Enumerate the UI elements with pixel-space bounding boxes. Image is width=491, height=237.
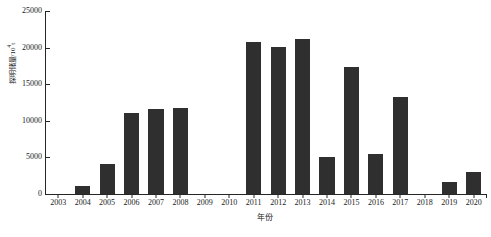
bar-slot [168, 11, 192, 194]
x-axis-tick: 2005 [95, 194, 119, 210]
y-axis-title: 探明储量/104t [9, 9, 16, 119]
x-axis-tick-label: 2016 [364, 199, 388, 207]
bar-slot [217, 11, 241, 194]
bar[interactable] [124, 113, 139, 194]
bar-slot [193, 11, 217, 194]
x-axis-tick-label: 2007 [144, 199, 168, 207]
bar-slot [461, 11, 485, 194]
x-axis-tick-label: 2012 [266, 199, 290, 207]
bar-slot [315, 11, 339, 194]
bar[interactable] [75, 186, 90, 194]
x-axis-tick-label: 2011 [242, 199, 266, 207]
bar[interactable] [393, 97, 408, 194]
x-axis-tick: 2017 [388, 194, 412, 210]
bar-slot [339, 11, 363, 194]
bar-slot [290, 11, 314, 194]
bar[interactable] [100, 164, 115, 194]
x-axis-tick: 2011 [242, 194, 266, 210]
x-axis-tick: 2007 [144, 194, 168, 210]
bar-slot [242, 11, 266, 194]
y-axis-tick-label: 0 [38, 190, 46, 198]
bar[interactable] [442, 182, 457, 194]
x-axis-title: 年份 [45, 214, 485, 222]
bars-layer [46, 11, 486, 194]
bar-slot [413, 11, 437, 194]
y-axis-tick-label: 15000 [22, 80, 46, 88]
plot-area: 0500010000150002000025000 20032004200520… [45, 11, 486, 195]
y-axis-tick-label: 5000 [26, 153, 46, 161]
bar[interactable] [319, 157, 334, 194]
x-axis-tick-label: 2010 [217, 199, 241, 207]
bar-slot [95, 11, 119, 194]
bar-chart: 探明储量/104t 0500010000150002000025000 2003… [0, 0, 491, 237]
bar[interactable] [246, 42, 261, 194]
x-axis-tick: 2019 [437, 194, 461, 210]
x-axis-tick-label: 2003 [46, 199, 70, 207]
bar-slot [364, 11, 388, 194]
bar[interactable] [344, 67, 359, 194]
bar-slot [70, 11, 94, 194]
x-axis-tick-label: 2008 [168, 199, 192, 207]
x-axis-tick: 2018 [413, 194, 437, 210]
bar[interactable] [173, 108, 188, 194]
bar-slot [388, 11, 412, 194]
bar-slot [437, 11, 461, 194]
x-axis-tick-label: 2006 [119, 199, 143, 207]
bar-slot [266, 11, 290, 194]
y-axis-title-text: 探明储量/10 [9, 47, 17, 84]
x-axis-tick-label: 2004 [70, 199, 94, 207]
bar-slot [46, 11, 70, 194]
bar[interactable] [368, 154, 383, 194]
x-axis-tick: 2008 [168, 194, 192, 210]
x-axis-tick: 2014 [315, 194, 339, 210]
bar[interactable] [148, 109, 163, 194]
x-axis-tick: 2006 [119, 194, 143, 210]
x-axis-tick-label: 2019 [437, 199, 461, 207]
x-axis-tick: 2010 [217, 194, 241, 210]
x-axis-tick-label: 2018 [413, 199, 437, 207]
x-axis-tick-label: 2009 [193, 199, 217, 207]
bar-slot [119, 11, 143, 194]
y-axis-title-unit: t [9, 43, 17, 45]
y-axis-tick-label: 10000 [22, 116, 46, 124]
x-axis-tick-label: 2013 [290, 199, 314, 207]
x-axis-tick: 2013 [290, 194, 314, 210]
x-axis-tick: 2004 [70, 194, 94, 210]
x-axis-ticks: 2003200420052006200720082009201020112012… [46, 194, 486, 210]
x-axis-tick-label: 2015 [339, 199, 363, 207]
x-axis-tick-label: 2020 [461, 199, 485, 207]
bar[interactable] [295, 39, 310, 194]
y-axis-tick-label: 20000 [22, 43, 46, 51]
bar[interactable] [466, 172, 481, 194]
x-axis-tick: 2012 [266, 194, 290, 210]
x-axis-tick: 2020 [461, 194, 485, 210]
x-axis-tick-label: 2005 [95, 199, 119, 207]
x-axis-tick: 2009 [193, 194, 217, 210]
y-axis-title-exponent: 4 [6, 45, 12, 48]
x-axis-tick-label: 2017 [388, 199, 412, 207]
bar[interactable] [271, 47, 286, 194]
x-axis-tick: 2015 [339, 194, 363, 210]
bar-slot [144, 11, 168, 194]
y-axis-tick-label: 25000 [22, 7, 46, 15]
x-axis-end-tick [486, 194, 487, 198]
x-axis-tick: 2016 [364, 194, 388, 210]
x-axis-tick: 2003 [46, 194, 70, 210]
x-axis-tick-label: 2014 [315, 199, 339, 207]
